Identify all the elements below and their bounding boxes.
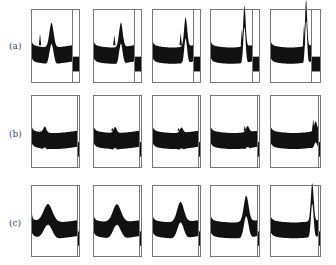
spectrum-panel (210, 95, 260, 168)
row-label: (c) (9, 218, 21, 228)
signal-band (31, 125, 77, 149)
spike-line (312, 119, 314, 131)
spectrum-panel (270, 9, 321, 83)
spike-line (39, 33, 41, 45)
side-strip-block (134, 57, 142, 72)
spectrum-panel (31, 185, 80, 257)
spectrum-panel (210, 9, 260, 83)
signal-band (152, 18, 193, 64)
spike-line (113, 35, 115, 45)
signal-band (152, 202, 198, 238)
panel-frame (271, 10, 321, 83)
spectrum-panel (152, 185, 201, 257)
side-strip-block (193, 57, 201, 72)
spike-line (180, 33, 182, 46)
spike-line (39, 131, 41, 132)
spike-line (111, 128, 113, 131)
spike-line (177, 128, 179, 131)
signal-band (210, 6, 252, 64)
spectrum-panel (93, 185, 142, 257)
signal-band (31, 204, 77, 238)
side-strip-block (311, 57, 321, 72)
signal-band (93, 125, 139, 150)
spike-line (244, 126, 246, 131)
signal-band (210, 125, 257, 149)
signal-band (93, 204, 139, 238)
spectrum-panel (270, 185, 321, 257)
spectrum-panel (93, 95, 142, 168)
signal-band (270, 183, 318, 238)
spectrum-panel (270, 95, 321, 168)
side-strip-block (72, 57, 80, 72)
row-label: (b) (9, 129, 22, 139)
side-strip-block (252, 57, 260, 72)
signal-band (270, 121, 318, 149)
spectrum-panel (152, 95, 201, 168)
spectrum-panel (152, 9, 201, 83)
row-label: (a) (9, 41, 21, 51)
signal-band (31, 23, 72, 64)
spectrum-panel (31, 9, 80, 83)
spectrum-panel (31, 95, 80, 168)
spectrum-panel (93, 9, 142, 83)
signal-band (152, 125, 198, 150)
spectrum-panel (210, 185, 260, 257)
signal-band (210, 196, 257, 239)
